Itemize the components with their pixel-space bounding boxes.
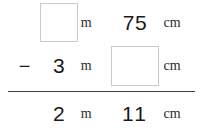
subtrahend-cm-unit-cell: cm [162,59,203,73]
length-subtraction-worksheet: m 75 cm − 3 m cm 2 [0,0,203,129]
minus-sign-icon: − [19,56,31,76]
minuend-cm-unit: cm [164,16,181,30]
difference-metre-value: 2 [53,103,65,124]
subtrahend-cm-value-cell [108,46,161,86]
answer-box-subtrahend-cm[interactable] [111,46,159,86]
minuend-metre-unit-cell: m [79,16,109,30]
minuend-cm-value-cell: 75 [108,12,161,33]
minuend-metre-unit: m [81,16,92,30]
difference-metre-unit: m [81,107,92,121]
difference-row: 2 m 11 cm [0,92,203,129]
minuend-metre-value-cell [39,3,78,42]
difference-cm-unit: cm [164,107,181,121]
difference-metre-unit-cell: m [79,107,109,121]
subtrahend-row: − 3 m cm [0,44,203,87]
subtrahend-operator-cell: − [0,56,39,76]
minuend-row: m 75 cm [0,1,203,44]
subtrahend-cm-unit: cm [164,59,181,73]
difference-cm-value: 11 [122,103,148,124]
answer-box-minuend-metre[interactable] [40,3,78,42]
minuend-cm-unit-cell: cm [162,16,203,30]
minuend-cm-value: 75 [123,12,147,33]
subtrahend-metre-unit: m [81,59,92,73]
difference-metre-value-cell: 2 [39,103,78,124]
subtrahend-metre-value-cell: 3 [39,55,78,76]
difference-cm-value-cell: 11 [108,103,161,124]
subtrahend-metre-unit-cell: m [79,59,109,73]
difference-cm-unit-cell: cm [162,107,203,121]
subtrahend-metre-value: 3 [53,55,65,76]
